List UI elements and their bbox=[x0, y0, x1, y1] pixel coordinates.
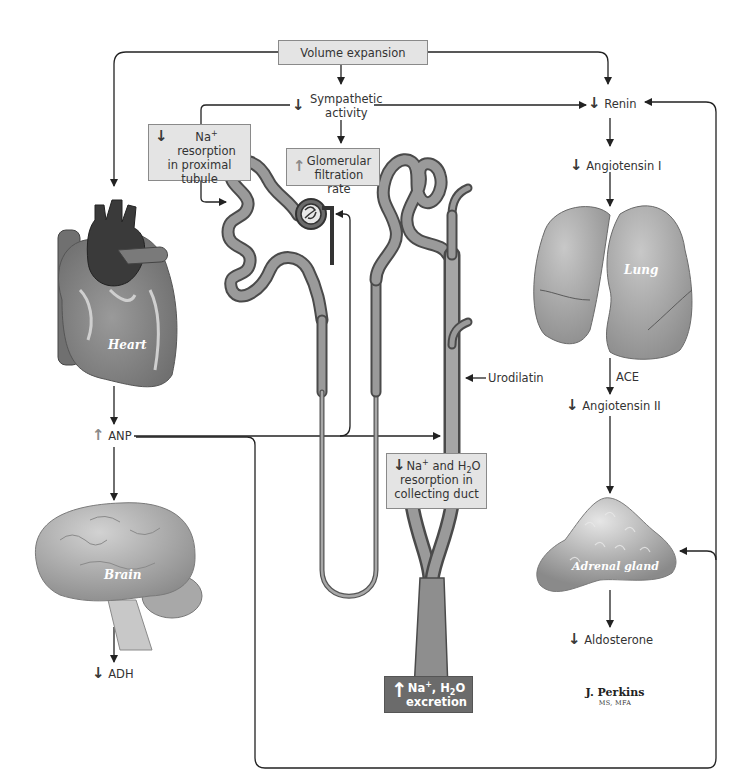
resorption-label: resorption bbox=[177, 144, 236, 158]
collecting-duct-base bbox=[414, 578, 448, 690]
urodilatin-label: Urodilatin bbox=[488, 371, 544, 385]
heart-label: Heart bbox=[108, 338, 147, 352]
angiotensin-1-label: Angiotensin I bbox=[586, 159, 661, 173]
adrenal-gland-illustration bbox=[537, 498, 676, 592]
sympathetic-activity-node: ↓ Sympathetic activity bbox=[292, 92, 383, 120]
na-proximal-tubule-box: ↓ Na+ resorption in proximal tubule bbox=[148, 124, 251, 181]
gfr-box: ↑ Glomerular filtration rate bbox=[286, 148, 380, 186]
na-label: Na bbox=[195, 130, 211, 144]
decrease-arrow-icon: ↓ bbox=[292, 98, 305, 112]
o-label: O bbox=[472, 459, 481, 473]
na-label: Na bbox=[406, 459, 422, 473]
proximal-label-line3: tubule bbox=[153, 172, 246, 186]
artist-signature: J. Perkins MS, MFA bbox=[580, 686, 650, 707]
decrease-arrow-icon: ↓ bbox=[393, 458, 406, 472]
sympathetic-label-line2: activity bbox=[310, 106, 383, 120]
and-h-label: and H bbox=[429, 459, 467, 473]
signature-credentials: MS, MFA bbox=[580, 699, 650, 707]
angiotensin-2-label: Angiotensin II bbox=[582, 399, 660, 413]
lung-illustration bbox=[534, 206, 692, 359]
proximal-label-line2: in proximal bbox=[153, 158, 246, 172]
heart-illustration bbox=[58, 200, 177, 387]
decrease-arrow-icon: ↓ bbox=[588, 96, 601, 110]
o-label: O bbox=[455, 681, 465, 695]
sympathetic-label-line1: Sympathetic bbox=[310, 92, 383, 106]
brain-label: Brain bbox=[104, 568, 142, 582]
anp-node: ↑ ANP bbox=[92, 428, 132, 443]
plus-superscript: + bbox=[422, 458, 429, 467]
h-label: , H bbox=[432, 681, 450, 695]
renin-node: ↓ Renin bbox=[588, 96, 637, 111]
ace-label: ACE bbox=[616, 370, 639, 384]
increase-arrow-icon: ↑ bbox=[92, 428, 105, 442]
adh-label: ADH bbox=[108, 667, 133, 681]
anp-label: ANP bbox=[108, 429, 131, 443]
aldosterone-label: Aldosterone bbox=[584, 633, 653, 647]
angiotensin-2-node: ↓ Angiotensin II bbox=[566, 398, 661, 413]
adrenal-gland-label: Adrenal gland bbox=[572, 560, 659, 573]
collecting-duct-box: ↓ Na+ and H2O resorption in collecting d… bbox=[386, 453, 487, 509]
angiotensin-1-node: ↓ Angiotensin I bbox=[570, 158, 661, 173]
decrease-arrow-icon: ↓ bbox=[566, 398, 579, 412]
na-label: Na bbox=[408, 681, 425, 695]
decrease-arrow-icon: ↓ bbox=[92, 666, 105, 680]
adh-node: ↓ ADH bbox=[92, 666, 134, 681]
increase-arrow-icon: ↑ bbox=[293, 159, 306, 173]
aldosterone-node: ↓ Aldosterone bbox=[568, 632, 653, 647]
renin-label: Renin bbox=[604, 97, 636, 111]
decrease-arrow-icon: ↓ bbox=[570, 158, 583, 172]
increase-arrow-icon: ↑ bbox=[391, 683, 408, 697]
nephron-illustration bbox=[228, 160, 468, 596]
diagram-canvas: Volume expansion ↓ Sympathetic activity … bbox=[0, 0, 753, 781]
plus-superscript: + bbox=[425, 680, 432, 689]
decrease-arrow-icon: ↓ bbox=[568, 632, 581, 646]
collecting-label-line3: collecting duct bbox=[390, 487, 483, 501]
plus-superscript: + bbox=[211, 129, 218, 138]
lung-label: Lung bbox=[624, 263, 658, 277]
volume-expansion-label: Volume expansion bbox=[300, 46, 405, 60]
volume-expansion-box: Volume expansion bbox=[278, 40, 428, 65]
signature-name: J. Perkins bbox=[580, 686, 650, 699]
excretion-box: ↑ Na+, H2O excretion bbox=[384, 676, 473, 713]
collecting-label-line2: resorption in bbox=[390, 473, 483, 487]
decrease-arrow-icon: ↓ bbox=[155, 129, 168, 143]
